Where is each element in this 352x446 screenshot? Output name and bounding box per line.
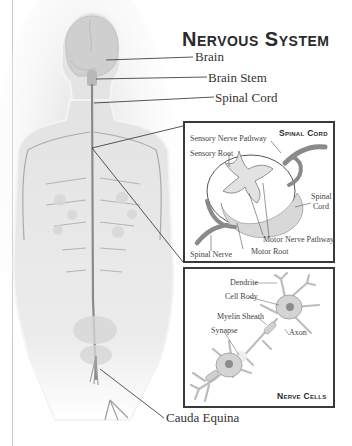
label-sensory-root: Sensory Root	[190, 150, 233, 158]
label-axon: Axon	[289, 329, 307, 337]
label-spinal-cord: Spinal Cord	[215, 90, 277, 106]
spinal-cord-panel: Spinal Cord Sensory Nerve Pathway Sensor…	[183, 121, 335, 263]
label-synapse: Synapse	[211, 327, 238, 335]
label-spinal-cord-panel-1: Spinal	[311, 193, 331, 201]
label-brain: Brain	[195, 49, 224, 65]
nerve-cells-illustration	[185, 269, 333, 406]
label-cauda-equina: Cauda Equina	[166, 410, 239, 426]
label-sensory-nerve-pathway: Sensory Nerve Pathway	[190, 135, 267, 143]
nerve-cells-panel: Dendrite Cell Body Myelin Sheath Axon Sy…	[183, 267, 335, 408]
label-cell-body: Cell Body	[225, 293, 258, 301]
label-dendrite: Dendrite	[230, 279, 258, 287]
label-brain-stem: Brain Stem	[208, 70, 267, 86]
nerve-cells-panel-title: Nerve Cells	[277, 391, 327, 401]
label-spinal-nerve: Spinal Nerve	[190, 251, 232, 259]
label-spinal-cord-panel-2: Cord	[313, 203, 329, 211]
spinal-cord-panel-title: Spinal Cord	[279, 128, 328, 138]
diagram-title: Nervous System	[182, 28, 329, 51]
label-motor-nerve-pathway: Motor Nerve Pathway	[263, 236, 334, 244]
label-motor-root: Motor Root	[251, 248, 289, 256]
label-myelin-sheath: Myelin Sheath	[217, 313, 264, 321]
